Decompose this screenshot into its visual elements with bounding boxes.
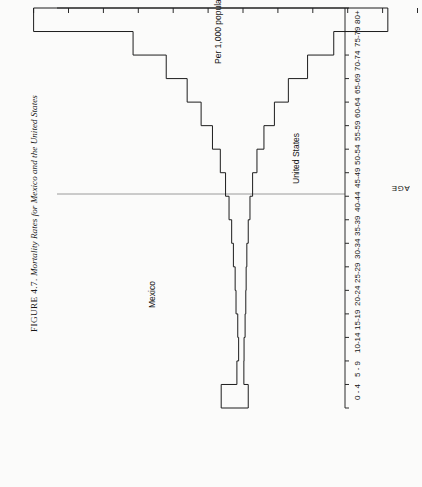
figure-caption-text: Mortality Rates for Mexico and the Unite… (29, 95, 39, 276)
age-tick-label: 35-39 (353, 215, 362, 235)
age-axis-ticks (345, 8, 349, 408)
age-tick-label: 55-59 (353, 121, 362, 141)
series-label-united-states: United States (291, 133, 301, 184)
age-tick-label: 60-64 (353, 97, 362, 117)
age-tick-label: 30-34 (353, 239, 362, 259)
age-tick-label: 70-74 (353, 50, 362, 70)
age-tick-label: 10-14 (353, 333, 362, 353)
age-tick-label: 15-19 (353, 309, 362, 329)
age-tick-label: 0 - 4 (353, 384, 362, 400)
figure-caption: FIGURE 4.7. Mortality Rates for Mexico a… (29, 92, 39, 332)
age-tick-label: 5 - 9 (353, 361, 362, 377)
series-label-mexico: Mexico (147, 281, 157, 308)
age-axis-title: AGE (391, 184, 410, 193)
value-axis-title: Per 1,000 population (213, 0, 223, 64)
series-path-mexico (34, 8, 243, 408)
age-tick-label: 40-44 (353, 192, 362, 212)
age-tick-label: 80+ (353, 10, 362, 24)
figure-number: FIGURE 4.7. (29, 278, 39, 332)
age-tick-label: 25-29 (353, 262, 362, 282)
chart-plot-area: 12010080604020020406080100 80+75-7970-74… (57, 8, 345, 408)
mortality-step-chart (57, 8, 345, 408)
age-tick-label: 45-49 (353, 168, 362, 188)
age-tick-label: 50-54 (353, 144, 362, 164)
age-tick-label: 20-24 (353, 286, 362, 306)
series-path-united-states (243, 8, 388, 408)
age-tick-label: 75-79 (353, 27, 362, 47)
age-tick-label: 65-69 (353, 74, 362, 94)
